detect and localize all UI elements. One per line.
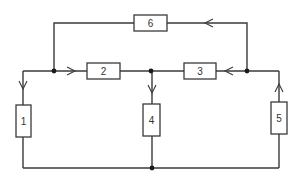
junction-node (150, 166, 155, 171)
component-3: 3 (184, 63, 216, 79)
circuit-diagram: 1 2 3 4 5 6 (0, 0, 302, 181)
component-4: 4 (143, 104, 160, 136)
junction-node (149, 69, 154, 74)
component-2: 2 (87, 63, 120, 79)
wires (23, 23, 279, 168)
junction-node (52, 69, 57, 74)
junction-node (245, 69, 250, 74)
component-5-label: 5 (276, 113, 282, 124)
circuit-svg: 1 2 3 4 5 6 (0, 0, 302, 181)
component-2-label: 2 (101, 66, 107, 77)
component-6-label: 6 (148, 18, 154, 29)
component-6: 6 (134, 15, 167, 31)
component-1-label: 1 (21, 116, 27, 127)
component-4-label: 4 (149, 115, 155, 126)
component-5: 5 (271, 102, 287, 134)
component-1: 1 (16, 105, 31, 137)
component-3-label: 3 (197, 66, 203, 77)
